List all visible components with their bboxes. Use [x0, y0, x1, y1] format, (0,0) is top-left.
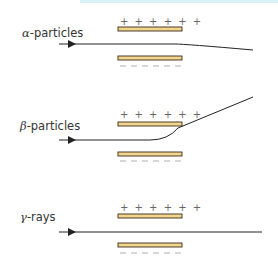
deflection-diagram: + + + + + + + + + + + + + + + + + +	[0, 0, 278, 260]
alpha-path	[72, 44, 253, 50]
positive-charges: + + + + + +	[120, 202, 203, 213]
negative-plate	[118, 243, 182, 247]
positive-plate	[118, 27, 182, 31]
positive-plate	[118, 122, 182, 126]
positive-plate	[118, 214, 182, 218]
positive-charges: + + + + + +	[120, 109, 203, 120]
negative-plate	[118, 56, 182, 60]
alpha-panel: + + + + + +	[59, 16, 253, 66]
negative-plate	[118, 152, 182, 156]
positive-charges: + + + + + +	[120, 16, 203, 27]
beta-panel: + + + + + +	[59, 97, 253, 161]
gamma-panel: + + + + + +	[59, 202, 262, 253]
